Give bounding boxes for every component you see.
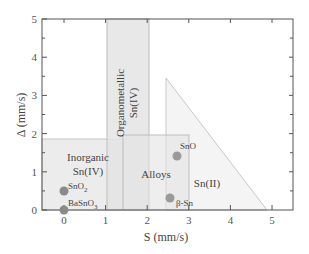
point-beta-sn [166,194,175,203]
label-inorganic: Inorganic [67,151,109,163]
svg-text:2: 2 [144,214,150,226]
svg-text:4: 4 [32,51,38,63]
svg-text:1: 1 [32,166,38,178]
svg-text:3: 3 [32,89,38,101]
label-alloys: Alloys [141,168,170,180]
svg-text:5: 5 [32,13,38,25]
label-inorganic-sn4: Sn(IV) [73,165,104,178]
svg-text:4: 4 [228,214,234,226]
svg-text:5: 5 [269,214,275,226]
svg-text:0: 0 [61,214,67,226]
x-tick-labels: 0 1 2 3 4 5 [61,214,275,226]
label-sno: SnO [180,141,197,151]
label-beta-sn: β-Sn [176,198,194,208]
label-organometallic-sn4: Sn(IV) [127,87,140,118]
y-tick-labels: 0 1 2 3 4 5 [32,13,38,216]
svg-text:0: 0 [32,204,38,216]
mossbauer-chart: 0 1 2 3 4 5 0 1 2 3 4 5 S (mm/s) Δ (mm/s… [0,0,309,254]
point-sno [173,152,182,161]
svg-text:2: 2 [32,128,38,140]
x-axis-title: S (mm/s) [144,230,188,244]
svg-text:3: 3 [186,214,192,226]
svg-text:1: 1 [103,214,109,226]
label-sn2: Sn(II) [194,177,221,190]
label-organometallic: Organometallic [114,69,126,137]
y-axis-title: Δ (mm/s) [14,93,28,138]
